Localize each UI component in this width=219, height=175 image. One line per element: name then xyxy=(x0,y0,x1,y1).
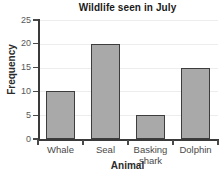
y-tick-label: 5 xyxy=(12,111,31,120)
y-tick-mark xyxy=(33,19,38,20)
gridline xyxy=(38,20,218,21)
y-tick-label: 10 xyxy=(12,87,31,96)
y-tick-mark xyxy=(33,115,38,116)
y-tick-label: 0 xyxy=(12,135,31,144)
bar xyxy=(181,68,211,139)
y-tick-label: 15 xyxy=(12,63,31,72)
x-category-label: Seal xyxy=(83,145,128,156)
bar xyxy=(136,115,166,139)
x-category-label: Dolphin xyxy=(173,145,218,156)
y-axis-line xyxy=(38,19,40,140)
bar-chart-figure: Wildlife seen in July Frequency 05101520… xyxy=(0,0,219,175)
gridline xyxy=(38,44,218,45)
y-tick-label: 25 xyxy=(12,16,31,25)
y-tick-label: 20 xyxy=(12,39,31,48)
y-tick-mark xyxy=(33,43,38,44)
y-tick-mark xyxy=(33,91,38,92)
bar xyxy=(46,91,76,139)
chart-title: Wildlife seen in July xyxy=(36,2,219,13)
x-category-label: Whale xyxy=(38,145,83,156)
plot-area xyxy=(38,20,218,139)
x-axis-title: Animal xyxy=(36,160,219,171)
y-tick-mark xyxy=(33,67,38,68)
bar xyxy=(91,44,121,139)
